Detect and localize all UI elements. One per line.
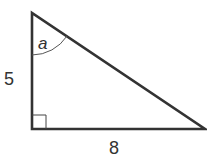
vertical-side-label: 5 xyxy=(4,69,14,89)
angle-label: a xyxy=(38,34,47,53)
right-triangle xyxy=(32,13,205,129)
horizontal-side-label: 8 xyxy=(109,138,119,158)
triangle-diagram: a 5 8 xyxy=(0,0,207,162)
right-angle-marker xyxy=(32,115,46,129)
